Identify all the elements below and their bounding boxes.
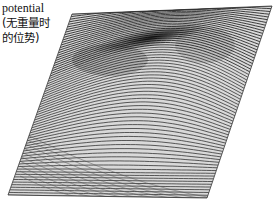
surface-plot xyxy=(0,0,276,205)
back-lobe xyxy=(175,27,235,63)
ridge-shadow xyxy=(72,44,148,76)
